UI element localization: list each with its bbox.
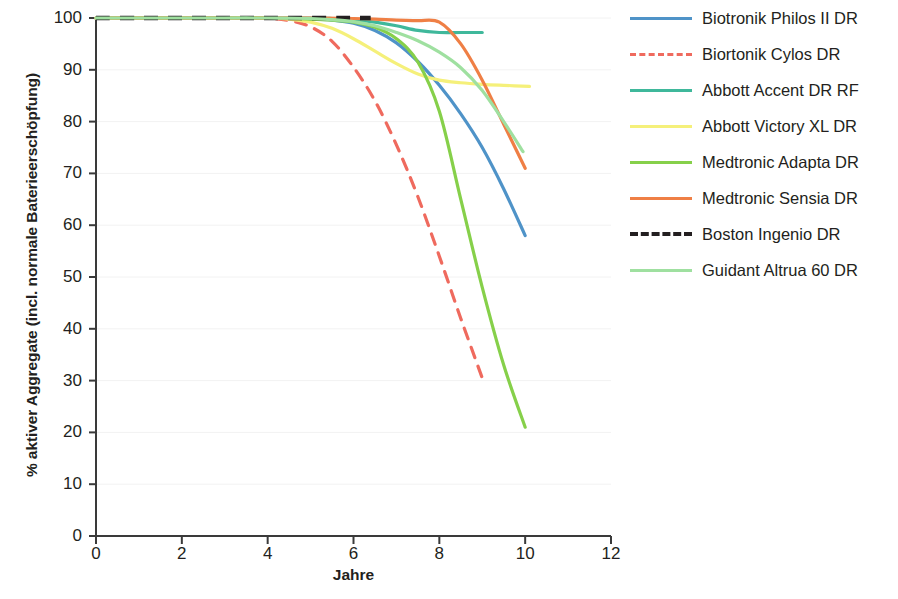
legend-item-label: Medtronic Adapta DR [702,153,859,172]
y-tick-label: 70 [36,164,82,181]
y-tick-label: 30 [36,372,82,389]
chart-figure: % aktiver Aggregate (incl. normale Bater… [0,0,898,599]
legend-swatch-line-icon [630,53,692,56]
legend-item-label: Medtronic Sensia DR [702,189,858,208]
x-tick-label: 8 [419,545,459,562]
legend-item[interactable]: Abbott Accent DR RF [630,72,898,108]
y-tick-label: 60 [36,216,82,233]
x-tick-label: 6 [334,545,374,562]
legend-item[interactable]: Medtronic Adapta DR [630,144,898,180]
legend-item[interactable]: Biotronik Philos II DR [630,0,898,36]
y-axis-tick-labels: 1009080706050403020100 [36,0,82,599]
legend-item[interactable]: Medtronic Sensia DR [630,180,898,216]
legend-item[interactable]: Abbott Victory XL DR [630,108,898,144]
x-tick-label: 4 [248,545,288,562]
legend-item-label: Boston Ingenio DR [702,225,841,244]
axis-ticks [89,18,611,544]
legend-swatch-line-icon [630,161,692,164]
series-line [96,18,525,168]
series-line [96,18,523,152]
legend-swatch-line-icon [630,269,692,272]
data-series-group [96,18,529,427]
x-tick-label: 10 [505,545,545,562]
legend-swatch-line-icon [630,125,692,128]
y-tick-label: 10 [36,475,82,492]
legend-swatch-line-icon [630,232,692,236]
legend-item-label: Abbott Victory XL DR [702,117,857,136]
legend-item-label: Biortonik Cylos DR [702,45,840,64]
x-tick-label: 0 [76,545,116,562]
legend-item[interactable]: Biortonik Cylos DR [630,36,898,72]
chart-legend: Biotronik Philos II DRBiortonik Cylos DR… [630,0,898,288]
y-tick-label: 20 [36,423,82,440]
legend-swatch-line-icon [630,89,692,92]
x-tick-label: 12 [591,545,631,562]
y-tick-label: 40 [36,320,82,337]
legend-item[interactable]: Boston Ingenio DR [630,216,898,252]
x-tick-label: 2 [162,545,202,562]
y-tick-label: 90 [36,61,82,78]
y-tick-label: 0 [36,527,82,544]
legend-item[interactable]: Guidant Altrua 60 DR [630,252,898,288]
y-tick-label: 100 [36,9,82,26]
gridlines [96,18,611,484]
x-axis-label: Jahre [96,566,611,584]
y-tick-label: 80 [36,113,82,130]
series-line [96,18,525,427]
legend-swatch-line-icon [630,17,692,20]
y-tick-label: 50 [36,268,82,285]
legend-item-label: Biotronik Philos II DR [702,9,858,28]
legend-item-label: Guidant Altrua 60 DR [702,261,858,280]
legend-swatch-line-icon [630,197,692,200]
legend-item-label: Abbott Accent DR RF [702,81,859,100]
